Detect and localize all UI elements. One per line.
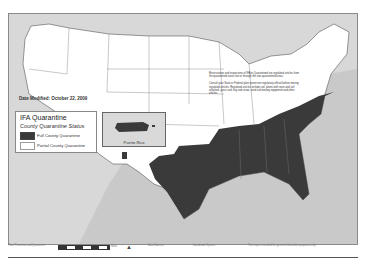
notes-paragraph-2: Consult your State or Federal plant prot… [209, 82, 299, 95]
date-modified: Date Modified: October 22, 2009 [19, 96, 87, 101]
partial-quarantine-swatch [20, 142, 35, 150]
partial-quarantine-label: Partial County Quarantine [37, 143, 85, 148]
scale-bar [58, 245, 110, 250]
data-sources: Data Sources [148, 244, 164, 247]
legend-subtitle: County Quarantine Status [20, 123, 84, 129]
legend-title: IFA Quarantine [20, 114, 67, 121]
map-footer: Plant Protection and Quarantine Miles ▲ … [8, 244, 358, 258]
puerto-rico-label: Puerto Rico [103, 140, 165, 145]
scale-label: Miles [111, 245, 117, 248]
footer-agency: Plant Protection and Quarantine [8, 244, 48, 247]
footer-rule [8, 257, 358, 258]
full-quarantine-swatch [20, 132, 35, 140]
map-frame: Date Modified: October 22, 2009 IFA Quar… [8, 13, 358, 245]
north-arrow-icon: ▲ [126, 244, 132, 250]
disclaimer: This map is intended for general informa… [248, 244, 358, 247]
puerto-rico-inset: Puerto Rico [102, 112, 166, 147]
full-quarantine-label: Full County Quarantine [37, 133, 80, 138]
map-notes: Reservations and inspections of IFA in Q… [209, 72, 299, 95]
coordinate-system: Coordinate System [193, 244, 215, 247]
notes-paragraph-1: Reservations and inspections of IFA in Q… [209, 72, 299, 78]
map-legend: IFA Quarantine County Quarantine Status … [15, 111, 97, 153]
puerto-rico-shape [103, 113, 165, 139]
